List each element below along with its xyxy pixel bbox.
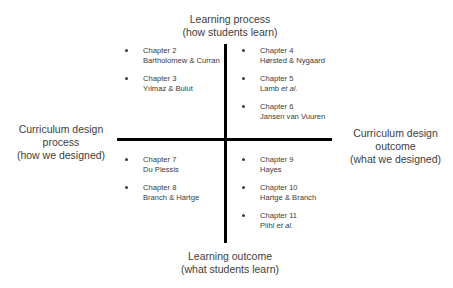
chapter-item: Chapter 4 Hørsted & Nygaard: [234, 46, 325, 66]
chapter-item: Chapter 3 Yılmaz & Bulut: [117, 74, 220, 94]
chapter-number: Chapter 7: [143, 155, 199, 165]
et-al: et al.: [276, 221, 292, 230]
bullet-icon: [242, 214, 245, 217]
horizontal-axis-line: [117, 138, 332, 141]
bullet-icon: [242, 158, 245, 161]
axis-right-line1: Curriculum design: [338, 127, 453, 140]
bullet-icon: [125, 49, 128, 52]
quadrant-bottom-right: Chapter 9 Hayes Chapter 10 Hartge & Bran…: [234, 155, 316, 239]
axis-left-line1: Curriculum design: [0, 123, 122, 136]
chapter-item: Chapter 10 Hartge & Branch: [234, 183, 316, 203]
axis-right-line2: outcome: [338, 140, 453, 153]
chapter-item: Chapter 7 Du Plessis: [117, 155, 199, 175]
axis-right-line3: (what we designed): [338, 153, 453, 166]
axis-left-line3: (how we designed): [0, 149, 122, 162]
chapter-authors: Jansen van Vuuren: [260, 112, 325, 122]
bullet-icon: [242, 186, 245, 189]
chapter-authors: Hartge & Branch: [260, 193, 316, 203]
chapter-number: Chapter 6: [260, 102, 325, 112]
chapter-authors: Piihl et al.: [260, 221, 316, 231]
chapter-item: Chapter 2 Bartholomew & Curran: [117, 46, 220, 66]
chapter-number: Chapter 4: [260, 46, 325, 56]
chapter-number: Chapter 3: [143, 74, 220, 84]
axis-label-bottom: Learning outcome (what students learn): [150, 250, 310, 276]
axis-left-line2: process: [0, 136, 122, 149]
chapter-authors: Du Plessis: [143, 165, 199, 175]
bullet-icon: [242, 49, 245, 52]
chapter-authors: Branch & Hartge: [143, 193, 199, 203]
quadrant-bottom-left: Chapter 7 Du Plessis Chapter 8 Branch & …: [117, 155, 199, 211]
chapter-item: Chapter 9 Hayes: [234, 155, 316, 175]
chapter-item: Chapter 6 Jansen van Vuuren: [234, 102, 325, 122]
bullet-icon: [242, 105, 245, 108]
vertical-axis-line: [224, 44, 227, 243]
chapter-authors: Hørsted & Nygaard: [260, 56, 325, 66]
axis-top-line2: (how students learn): [150, 26, 310, 39]
chapter-authors: Hayes: [260, 165, 316, 175]
bullet-icon: [125, 158, 128, 161]
chapter-item: Chapter 8 Branch & Hartge: [117, 183, 199, 203]
axis-bottom-line1: Learning outcome: [150, 250, 310, 263]
author-name: Piihl: [260, 221, 276, 230]
chapter-number: Chapter 8: [143, 183, 199, 193]
chapter-authors: Yılmaz & Bulut: [143, 84, 220, 94]
author-name: Lamb: [260, 84, 281, 93]
chapter-authors: Lamb et al.: [260, 84, 325, 94]
quadrant-top-right: Chapter 4 Hørsted & Nygaard Chapter 5 La…: [234, 46, 325, 130]
chapter-number: Chapter 5: [260, 74, 325, 84]
chapter-number: Chapter 10: [260, 183, 316, 193]
chapter-number: Chapter 2: [143, 46, 220, 56]
bullet-icon: [125, 77, 128, 80]
axis-label-left: Curriculum design process (how we design…: [0, 123, 122, 162]
axis-label-top: Learning process (how students learn): [150, 13, 310, 39]
axis-bottom-line2: (what students learn): [150, 263, 310, 276]
quadrant-top-left: Chapter 2 Bartholomew & Curran Chapter 3…: [117, 46, 220, 102]
et-al: et al.: [281, 84, 297, 93]
chapter-number: Chapter 11: [260, 211, 316, 221]
bullet-icon: [242, 77, 245, 80]
axis-label-right: Curriculum design outcome (what we desig…: [338, 127, 453, 166]
chapter-authors: Bartholomew & Curran: [143, 56, 220, 66]
axis-top-line1: Learning process: [150, 13, 310, 26]
chapter-number: Chapter 9: [260, 155, 316, 165]
chapter-item: Chapter 5 Lamb et al.: [234, 74, 325, 94]
chapter-item: Chapter 11 Piihl et al.: [234, 211, 316, 231]
bullet-icon: [125, 186, 128, 189]
